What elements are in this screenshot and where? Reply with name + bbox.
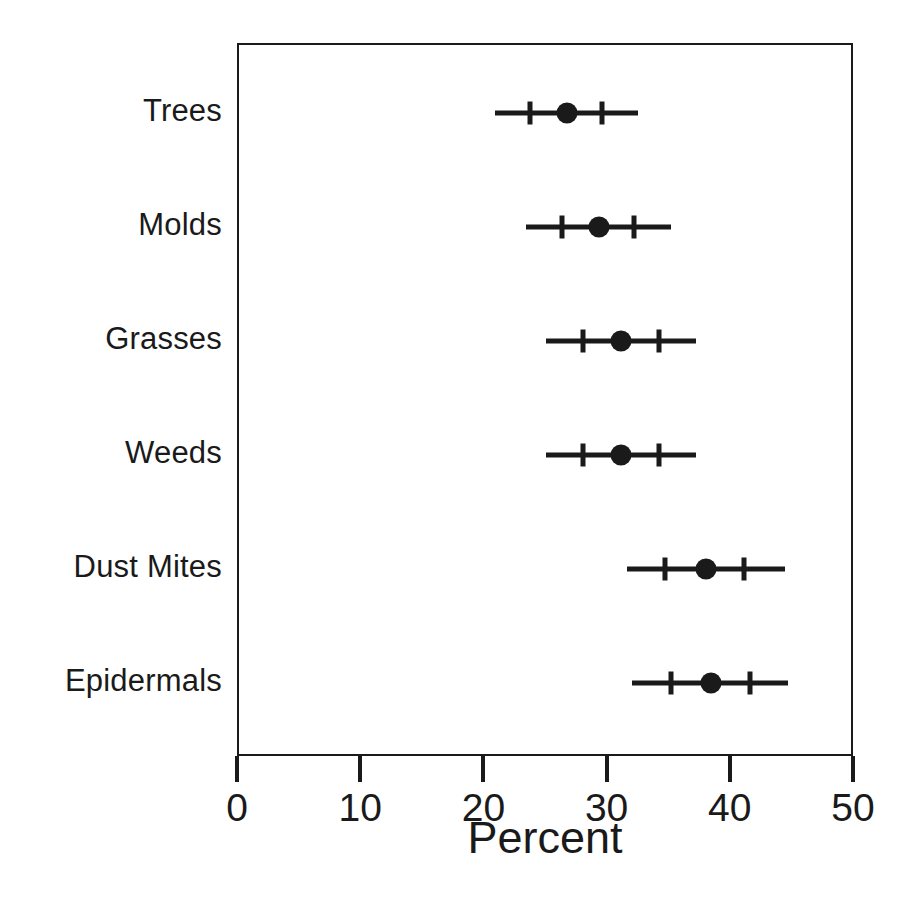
x-axis-tick	[481, 756, 485, 782]
x-axis-tick	[728, 756, 732, 782]
error-bar-inner-tick-high	[632, 216, 637, 239]
data-point-marker	[588, 217, 609, 238]
data-point-marker	[610, 331, 631, 352]
category-axis-labels: TreesMoldsGrassesWeedsDust MitesEpiderma…	[0, 0, 222, 901]
x-axis-title: Percent	[237, 812, 853, 864]
error-bar-inner-tick-low	[527, 102, 532, 125]
x-axis-tick	[851, 756, 855, 782]
category-label: Weeds	[125, 435, 222, 471]
error-bar-inner-tick-high	[600, 102, 605, 125]
error-bar-inner-tick-low	[669, 672, 674, 695]
category-label: Epidermals	[65, 663, 222, 699]
data-point-marker	[700, 673, 721, 694]
category-label: Molds	[138, 207, 222, 243]
x-axis: 01020304050	[237, 756, 853, 757]
error-bar-inner-tick-low	[663, 558, 668, 581]
data-series-layer	[239, 45, 851, 754]
chart-figure: TreesMoldsGrassesWeedsDust MitesEpiderma…	[0, 0, 916, 901]
category-label: Dust Mites	[74, 549, 222, 585]
category-label: Trees	[143, 93, 222, 129]
category-label: Grasses	[105, 321, 222, 357]
plot-area	[237, 43, 853, 756]
error-bar-inner-tick-high	[657, 330, 662, 353]
error-bar-inner-tick-low	[580, 444, 585, 467]
data-point-marker	[556, 103, 577, 124]
x-axis-tick	[235, 756, 239, 782]
error-bar-inner-tick-low	[559, 216, 564, 239]
error-bar-inner-tick-low	[580, 330, 585, 353]
error-bar-inner-tick-high	[657, 444, 662, 467]
x-axis-tick	[358, 756, 362, 782]
data-point-marker	[610, 445, 631, 466]
error-bar-inner-tick-high	[742, 558, 747, 581]
x-axis-tick	[605, 756, 609, 782]
data-point-marker	[695, 559, 716, 580]
error-bar-inner-tick-high	[748, 672, 753, 695]
